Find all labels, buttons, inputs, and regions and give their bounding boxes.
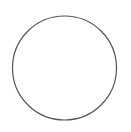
circle-shape (13, 16, 117, 120)
diagram-canvas (0, 0, 131, 132)
